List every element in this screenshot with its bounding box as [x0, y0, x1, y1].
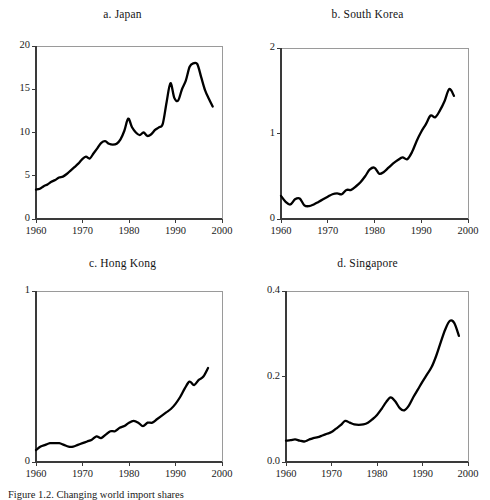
data-line-japan	[36, 63, 213, 190]
plot-area-singapore	[245, 253, 490, 493]
data-line-singapore	[286, 320, 459, 441]
xtick-label-japan: 1990	[157, 225, 195, 236]
xtick-label-south-korea: 1970	[309, 225, 347, 236]
xtick-label-hong-kong: 1970	[64, 468, 102, 479]
data-line-south-korea	[281, 89, 454, 206]
xtick-label-singapore: 1960	[267, 468, 305, 479]
ytick-label-south-korea: 2	[243, 41, 275, 52]
xtick-label-japan: 1980	[110, 225, 148, 236]
plot-area-japan	[0, 4, 245, 250]
xtick-label-south-korea: 1990	[402, 225, 440, 236]
xtick-label-south-korea: 1960	[262, 225, 300, 236]
plot-area-hong-kong	[0, 253, 245, 493]
xtick-label-hong-kong: 1990	[157, 468, 195, 479]
ytick-label-japan: 10	[0, 126, 30, 137]
xtick-label-singapore: 2000	[449, 468, 487, 479]
xtick-label-singapore: 1980	[358, 468, 396, 479]
panel-japan: a. Japan 0510152019601970198019902000	[0, 4, 245, 250]
xtick-label-japan: 1970	[64, 225, 102, 236]
xtick-label-singapore: 1990	[404, 468, 442, 479]
ytick-label-hong-kong: 0	[0, 455, 30, 466]
panel-singapore: d. Singapore 0.00.20.4196019701980199020…	[245, 253, 490, 493]
xtick-label-hong-kong: 2000	[203, 468, 241, 479]
ytick-label-singapore: 0.2	[248, 370, 280, 381]
ytick-label-japan: 20	[0, 39, 30, 50]
xtick-label-south-korea: 2000	[449, 225, 487, 236]
xtick-label-hong-kong: 1980	[110, 468, 148, 479]
xtick-label-japan: 2000	[203, 225, 241, 236]
panel-hong-kong: c. Hong Kong 0119601970198019902000	[0, 253, 245, 493]
xtick-label-japan: 1960	[17, 225, 55, 236]
figure-caption: Figure 1.2. Changing world import shares	[8, 489, 482, 500]
xtick-label-hong-kong: 1960	[17, 468, 55, 479]
ytick-label-singapore: 0.4	[248, 284, 280, 295]
ytick-label-japan: 15	[0, 82, 30, 93]
data-line-hong-kong	[36, 368, 208, 450]
ytick-label-hong-kong: 1	[0, 284, 30, 295]
ytick-label-japan: 0	[0, 212, 30, 223]
panel-south-korea: b. South Korea 01219601970198019902000	[245, 4, 490, 250]
ytick-label-singapore: 0.0	[248, 455, 280, 466]
xtick-label-singapore: 1970	[313, 468, 351, 479]
plot-area-south-korea	[245, 4, 490, 250]
ytick-label-south-korea: 1	[243, 127, 275, 138]
ytick-label-japan: 5	[0, 169, 30, 180]
xtick-label-south-korea: 1980	[356, 225, 394, 236]
ytick-label-south-korea: 0	[243, 212, 275, 223]
